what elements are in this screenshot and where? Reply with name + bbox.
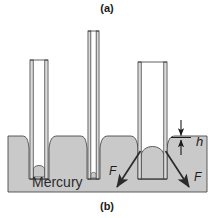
liquid-label: Mercury (32, 174, 83, 190)
figure-caption-a: (a) (0, 2, 214, 14)
tube-medium-wall-right (96, 31, 99, 179)
tube-wide-wall-left (138, 62, 141, 179)
force-label-right: F (194, 170, 202, 184)
tube-medium-mercury (91, 172, 97, 178)
tube-narrow (30, 60, 48, 179)
figure-caption-b: (b) (0, 200, 214, 212)
tube-narrow-wall-right (45, 60, 48, 179)
tube-wide-wall-right (164, 62, 167, 179)
figure-container: (a) (0, 0, 214, 218)
force-label-left: F (109, 164, 117, 178)
tube-wide-mercury (141, 147, 164, 180)
tube-medium-wall-left (88, 31, 91, 179)
capillary-depression-diagram: h F F Mercury (0, 0, 214, 218)
height-label: h (196, 134, 203, 149)
tube-medium (88, 31, 99, 179)
tube-wide (138, 62, 167, 179)
tube-narrow-wall-left (30, 60, 33, 179)
